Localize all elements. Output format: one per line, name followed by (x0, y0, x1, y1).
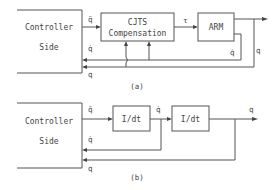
pos-feedback-label-right: q (256, 46, 261, 55)
cjts-label-line1: CJTS (128, 18, 147, 27)
diagram-b: Controller Side q̈ I/dt q̇ I/dt q q̇ (17, 103, 258, 182)
arrow-head-icon (252, 117, 258, 121)
arrow-head-icon (108, 117, 113, 121)
arrow-head-icon (124, 41, 128, 46)
acc-cmd-label-b: q̈ (88, 105, 93, 114)
arrow-head-icon (82, 58, 87, 62)
arrow-head-icon (96, 25, 101, 29)
pos-feedback-label-a: q (88, 70, 93, 79)
controller-label-line1: Controller (25, 23, 73, 32)
controller-side-block-a: Controller Side (17, 10, 82, 73)
vel-feedback-label-right: q̇ (230, 48, 235, 57)
controller-label-line2: Side (39, 43, 58, 52)
vel-feedback-label-b: q̇ (88, 135, 93, 144)
velocity-label: q̇ (156, 105, 161, 114)
cjts-compensation-block: CJTS Compensation (101, 13, 174, 41)
torque-label: τ (183, 16, 188, 25)
block-diagrams: Controller Side q̈ CJTS Compensation τ A… (0, 0, 277, 190)
arrow-head-icon (82, 158, 87, 162)
arrow-head-icon (82, 148, 87, 152)
integrator-2-label: I/dt (181, 115, 200, 124)
arrow-head-icon (262, 17, 268, 21)
cjts-label-line2: Compensation (109, 29, 167, 38)
diagram-a: Controller Side q̈ CJTS Compensation τ A… (17, 10, 268, 91)
arm-label: ARM (209, 23, 224, 32)
controller-label-line2: Side (39, 137, 58, 146)
acc-cmd-label-a: q̈ (88, 15, 93, 24)
pos-branch-to-cjts (126, 43, 128, 67)
integrator-2-block: I/dt (172, 106, 209, 131)
arrow-head-icon (193, 25, 198, 29)
arrow-head-icon (147, 41, 151, 46)
caption-b: (b) (130, 173, 144, 182)
arrow-head-icon (82, 65, 87, 69)
pos-output-label: q (249, 105, 254, 114)
integrator-1-block: I/dt (113, 106, 150, 131)
pos-feedback-line-b (84, 119, 235, 160)
caption-a: (a) (130, 82, 144, 91)
arm-block: ARM (198, 13, 234, 41)
pos-feedback-label-b: q (88, 164, 93, 173)
integrator-1-label: I/dt (122, 115, 141, 124)
arrow-head-icon (167, 117, 172, 121)
controller-label-line1: Controller (25, 117, 73, 126)
controller-side-block-b: Controller Side (17, 103, 82, 168)
vel-feedback-label-a: q̇ (88, 44, 93, 53)
